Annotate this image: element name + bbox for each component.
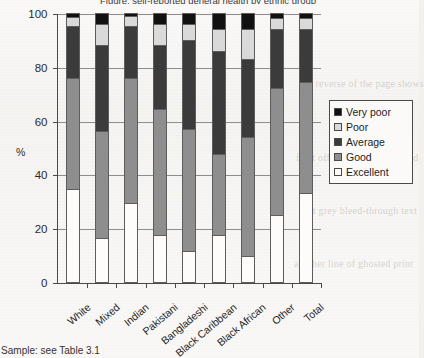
stacked-bar[interactable] bbox=[124, 14, 138, 283]
bar-segment-excellent[interactable] bbox=[270, 215, 284, 283]
legend-item-very-poor[interactable]: Very poor bbox=[334, 104, 409, 119]
bar-segment-good[interactable] bbox=[95, 131, 109, 238]
bar-segment-excellent[interactable] bbox=[124, 203, 138, 283]
legend-label: Very poor bbox=[346, 106, 391, 118]
bar-segment-excellent[interactable] bbox=[66, 189, 80, 283]
legend-swatch bbox=[334, 168, 342, 176]
y-axis-tick-label: 20 bbox=[35, 223, 48, 235]
bar-segment-poor[interactable] bbox=[212, 29, 226, 52]
bar-segment-average[interactable] bbox=[66, 26, 80, 78]
x-axis-tick bbox=[233, 283, 234, 288]
bar-group[interactable] bbox=[58, 14, 87, 283]
bar-segment-good[interactable] bbox=[299, 82, 313, 195]
legend-label: Poor bbox=[346, 121, 368, 133]
bar-segment-poor[interactable] bbox=[299, 18, 313, 30]
bar-segment-good[interactable] bbox=[241, 137, 255, 258]
bar-segment-good[interactable] bbox=[270, 88, 284, 215]
bar-segment-average[interactable] bbox=[212, 51, 226, 156]
bar-segment-excellent[interactable] bbox=[299, 193, 313, 283]
bar-segment-excellent[interactable] bbox=[95, 238, 109, 283]
bar-segment-excellent[interactable] bbox=[241, 256, 255, 283]
bar-segment-excellent[interactable] bbox=[153, 235, 167, 283]
x-axis-tick bbox=[204, 283, 205, 288]
bar-group[interactable] bbox=[233, 14, 262, 283]
bar-segment-average[interactable] bbox=[241, 59, 255, 138]
legend-item-poor[interactable]: Poor bbox=[334, 119, 409, 134]
bar-segment-good[interactable] bbox=[124, 78, 138, 204]
bar-segment-very-poor[interactable] bbox=[182, 13, 196, 25]
bar-segment-poor[interactable] bbox=[270, 18, 284, 30]
y-axis-tick-label: 60 bbox=[35, 116, 48, 128]
figure-caption: e: Sample: see Table 3.1 bbox=[0, 345, 100, 356]
bar-segment-average[interactable] bbox=[124, 26, 138, 78]
bar-segment-average[interactable] bbox=[182, 40, 196, 130]
stacked-bar[interactable] bbox=[299, 14, 313, 283]
bar-segment-very-poor[interactable] bbox=[124, 13, 138, 17]
stacked-bar[interactable] bbox=[241, 14, 255, 283]
bar-segment-poor[interactable] bbox=[124, 16, 138, 28]
bar-group[interactable] bbox=[116, 14, 145, 283]
bar-segment-average[interactable] bbox=[153, 45, 167, 109]
bar-segment-good[interactable] bbox=[153, 109, 167, 236]
legend-swatch bbox=[334, 138, 342, 146]
bar-group[interactable] bbox=[263, 14, 292, 283]
y-axis-tick-label: 80 bbox=[35, 62, 48, 74]
x-axis-label-other: Other bbox=[269, 301, 296, 327]
bar-segment-very-poor[interactable] bbox=[241, 13, 255, 30]
x-axis-tick bbox=[175, 283, 176, 288]
bar-segment-average[interactable] bbox=[95, 45, 109, 132]
bar-segment-poor[interactable] bbox=[153, 24, 167, 47]
bar-segment-very-poor[interactable] bbox=[212, 13, 226, 30]
y-axis-tick-label: 0 bbox=[41, 277, 47, 289]
bar-segment-very-poor[interactable] bbox=[66, 13, 80, 18]
legend-swatch bbox=[334, 153, 342, 161]
legend-swatch bbox=[334, 123, 342, 131]
bar-segment-poor[interactable] bbox=[66, 17, 80, 27]
y-axis-title: % bbox=[16, 146, 25, 158]
stacked-bar[interactable] bbox=[153, 14, 167, 283]
stacked-bar[interactable] bbox=[66, 14, 80, 283]
chart-legend: Very poorPoorAverageGoodExcellent bbox=[329, 100, 413, 184]
legend-label: Good bbox=[346, 151, 372, 163]
stacked-bar[interactable] bbox=[212, 14, 226, 283]
bar-segment-very-poor[interactable] bbox=[299, 13, 313, 19]
bar-segment-very-poor[interactable] bbox=[270, 13, 284, 19]
legend-swatch bbox=[334, 108, 342, 116]
legend-label: Excellent bbox=[346, 166, 389, 178]
x-axis-label-mixed: Mixed bbox=[93, 301, 122, 328]
bar-segment-average[interactable] bbox=[299, 29, 313, 82]
legend-item-good[interactable]: Good bbox=[334, 149, 409, 164]
x-axis-tick bbox=[116, 283, 117, 288]
bar-segment-poor[interactable] bbox=[182, 24, 196, 41]
x-axis-tick bbox=[321, 283, 322, 288]
bar-group[interactable] bbox=[292, 14, 321, 283]
bar-segment-very-poor[interactable] bbox=[153, 13, 167, 25]
bar-segment-poor[interactable] bbox=[241, 29, 255, 60]
bar-segment-very-poor[interactable] bbox=[95, 13, 109, 25]
bar-segment-good[interactable] bbox=[66, 78, 80, 191]
bar-segment-excellent[interactable] bbox=[182, 251, 196, 283]
legend-label: Average bbox=[346, 136, 385, 148]
x-axis-label-total: Total bbox=[302, 301, 326, 324]
bar-segment-good[interactable] bbox=[182, 129, 196, 252]
y-axis-tick bbox=[53, 283, 58, 284]
stacked-bar[interactable] bbox=[95, 14, 109, 283]
plot-area: 020406080100 WhiteMixedIndianPakistaniBa… bbox=[57, 14, 321, 284]
stacked-bar[interactable] bbox=[182, 14, 196, 283]
bar-group[interactable] bbox=[146, 14, 175, 283]
bar-group[interactable] bbox=[175, 14, 204, 283]
bar-group[interactable] bbox=[204, 14, 233, 283]
bar-segment-average[interactable] bbox=[270, 29, 284, 89]
stacked-bar[interactable] bbox=[270, 14, 284, 283]
bar-segment-excellent[interactable] bbox=[212, 235, 226, 283]
legend-item-excellent[interactable]: Excellent bbox=[334, 164, 409, 179]
bar-segment-good[interactable] bbox=[212, 154, 226, 236]
chart-title: Figure: self-reported general health by … bbox=[58, 0, 358, 4]
x-axis-tick bbox=[146, 283, 147, 288]
x-axis-label-white: White bbox=[64, 301, 92, 327]
x-axis-tick bbox=[87, 283, 88, 288]
bar-segment-poor[interactable] bbox=[95, 24, 109, 47]
legend-item-average[interactable]: Average bbox=[334, 134, 409, 149]
bar-group[interactable] bbox=[87, 14, 116, 283]
